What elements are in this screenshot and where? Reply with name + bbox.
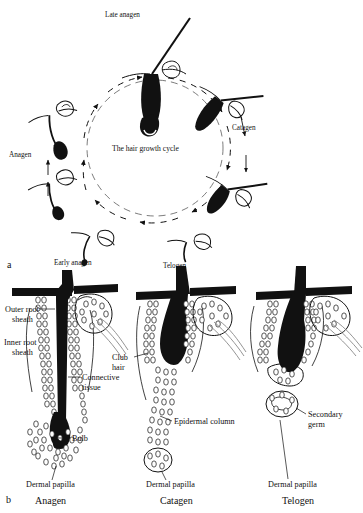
label-secondary-germ-line2: germ bbox=[308, 420, 325, 429]
panel-letter-a: a bbox=[7, 259, 12, 270]
label-connective-tissue-line1: Connective bbox=[82, 373, 120, 382]
label-bulb: Bulb bbox=[72, 434, 88, 443]
label-secondary-germ-line1: Secondary bbox=[308, 410, 343, 419]
panel-letter-b: b bbox=[6, 494, 11, 505]
caption-catagen: Catagen bbox=[160, 495, 193, 506]
label-connective-tissue-line2: tissue bbox=[82, 383, 101, 392]
label-late-anagen: Late anagen bbox=[105, 11, 140, 19]
label-outer-root-sheath-line1: Outer root bbox=[5, 305, 40, 314]
label-early-anagen: Early anagen bbox=[54, 259, 92, 267]
caption-telogen: Telogen bbox=[282, 495, 314, 506]
label-dermal-papilla-catagen: Dermal papilla bbox=[146, 480, 195, 489]
label-outer-root-sheath-line2: sheath bbox=[12, 315, 33, 324]
caption-anagen: Anagen bbox=[35, 495, 66, 506]
label-cycle-center: The hair growth cycle bbox=[112, 144, 179, 153]
label-catagen: Catagen bbox=[232, 124, 256, 132]
label-anagen: Anagen bbox=[9, 151, 32, 159]
figure-canvas: Late anagen Catagen Telogen bbox=[0, 0, 363, 513]
label-club-hair-line2: hair bbox=[112, 363, 125, 372]
hair-growth-cycle-figure: Late anagen Catagen Telogen bbox=[0, 0, 363, 513]
label-inner-root-sheath-line2: sheath bbox=[12, 348, 33, 357]
label-club-hair-line1: Club bbox=[112, 353, 128, 362]
label-dermal-papilla-telogen: Dermal papilla bbox=[268, 480, 317, 489]
label-epidermal-column: Epidermal column bbox=[174, 417, 235, 426]
label-inner-root-sheath-line1: Inner root bbox=[4, 338, 37, 347]
label-dermal-papilla-anagen: Dermal papilla bbox=[26, 480, 75, 489]
